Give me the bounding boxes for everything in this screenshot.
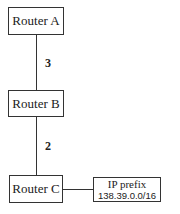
router-a-node: Router A bbox=[8, 7, 64, 35]
link-a-b bbox=[36, 35, 37, 90]
ip-prefix-node: IP prefix 138.39.0.0/16 bbox=[93, 177, 161, 202]
router-c-label: Router C bbox=[12, 181, 59, 197]
router-b-node: Router B bbox=[8, 90, 64, 117]
router-b-label: Router B bbox=[12, 96, 59, 112]
link-b-c bbox=[36, 117, 37, 175]
ip-prefix-label: IP prefix bbox=[108, 178, 146, 190]
link-c-prefix bbox=[63, 189, 93, 190]
router-a-label: Router A bbox=[12, 13, 59, 29]
ip-prefix-value: 138.39.0.0/16 bbox=[98, 190, 156, 202]
router-c-node: Router C bbox=[9, 175, 63, 203]
link-b-c-cost: 2 bbox=[45, 139, 51, 154]
link-a-b-cost: 3 bbox=[45, 56, 51, 71]
